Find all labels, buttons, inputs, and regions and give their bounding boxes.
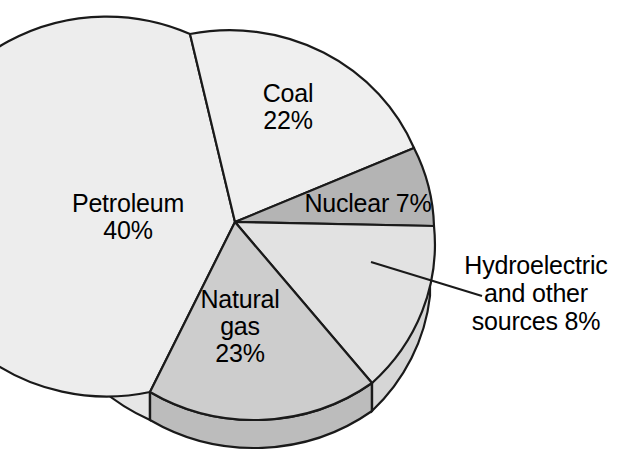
slice-label-hydroelectric: Hydroelectric and other sources 8% xyxy=(448,251,624,335)
pie-chart-graphic xyxy=(0,0,626,476)
pie-chart: Coal 22% Petroleum 40% Nuclear 7% Natura… xyxy=(0,0,626,476)
pie-top-face xyxy=(0,17,435,420)
